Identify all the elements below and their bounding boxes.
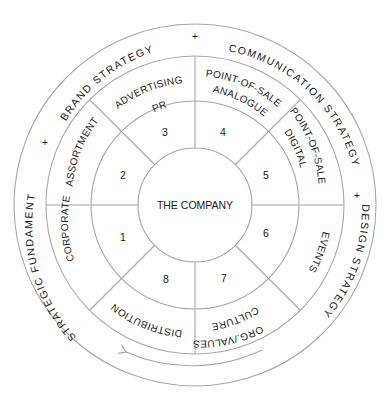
outer-label-brand-strategy: BRAND STRATEGY — [57, 42, 155, 122]
segment-label-pr: PR — [150, 99, 168, 115]
segment-number-1: 1 — [120, 231, 126, 243]
strategy-wheel-diagram: THE COMPANY BRAND STRATEGY COMMUNICATION… — [0, 0, 392, 410]
segment-label-events: EVENTS — [307, 231, 332, 275]
segment-number-4: 4 — [220, 126, 226, 138]
segment-label-advertising: ADVERTISING — [112, 74, 183, 110]
segment-number-6: 6 — [263, 227, 269, 239]
plus-separator-right: + — [354, 190, 360, 201]
segment-number-5: 5 — [263, 169, 269, 181]
segment-number-8: 8 — [163, 273, 169, 285]
segment-number-3: 3 — [162, 126, 168, 138]
center-label: THE COMPANY — [157, 199, 233, 211]
plus-separator-left: + — [42, 137, 48, 148]
segment-number-7: 7 — [221, 272, 227, 284]
segment-number-2: 2 — [120, 169, 126, 181]
rotation-arrow — [126, 350, 262, 366]
plus-separator-top: + — [192, 31, 198, 42]
